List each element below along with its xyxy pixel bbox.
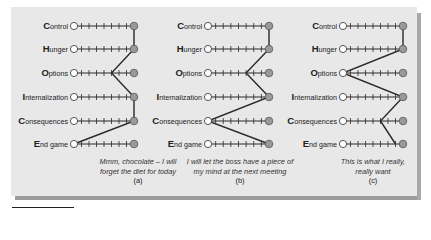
panel-tag-c: (c): [303, 176, 431, 186]
open-circle-icon: [204, 117, 211, 124]
filled-circle-icon: [265, 45, 273, 53]
row-label: End game: [168, 138, 202, 149]
filled-circle-icon: [399, 69, 407, 77]
row-label: Consequences: [18, 115, 68, 126]
filled-circle-icon: [265, 140, 273, 148]
caption-c: This is what I really, really want (c): [303, 157, 431, 186]
row-label: Options: [175, 67, 202, 78]
open-circle-icon: [70, 140, 77, 147]
open-circle-icon: [204, 45, 211, 52]
profile-line-b: [208, 26, 269, 144]
open-circle-icon: [339, 69, 346, 76]
caption-b-line1: I will let the boss have a piece of: [187, 157, 293, 166]
row-label: Control: [43, 20, 68, 31]
filled-circle-icon: [399, 22, 407, 30]
filled-circle-icon: [399, 140, 407, 148]
filled-circle-icon: [265, 22, 273, 30]
filled-circle-icon: [399, 45, 407, 53]
filled-circle-icon: [265, 93, 273, 101]
open-circle-icon: [70, 22, 77, 29]
caption-b: I will let the boss have a piece of my m…: [170, 157, 310, 186]
open-circle-icon: [204, 22, 211, 29]
profile-line-a: [74, 26, 134, 144]
row-label: Consequences: [152, 115, 202, 126]
filled-circle-icon: [399, 93, 407, 101]
open-circle-icon: [339, 45, 346, 52]
row-label: Internalization: [292, 91, 337, 102]
caption-b-line2: my mind at the next meeting: [194, 167, 287, 176]
footnote-rule: [12, 207, 74, 208]
open-circle-icon: [70, 69, 77, 76]
filled-circle-icon: [130, 140, 138, 148]
row-label: Hunger: [312, 43, 338, 54]
open-circle-icon: [204, 69, 211, 76]
caption-c-line1: This is what I really,: [341, 157, 405, 166]
open-circle-icon: [339, 22, 346, 29]
filled-circle-icon: [265, 69, 273, 77]
filled-circle-icon: [130, 117, 138, 125]
row-label: Options: [310, 67, 337, 78]
open-circle-icon: [70, 93, 77, 100]
row-label: Control: [177, 20, 202, 31]
caption-a-line2: forget the diet for today: [100, 167, 176, 176]
open-circle-icon: [204, 93, 211, 100]
row-label: Internalization: [157, 91, 202, 102]
open-circle-icon: [70, 45, 77, 52]
filled-circle-icon: [130, 22, 138, 30]
profile-line-c: [343, 26, 403, 144]
row-label: Control: [312, 20, 337, 31]
open-circle-icon: [339, 117, 346, 124]
filled-circle-icon: [265, 117, 273, 125]
open-circle-icon: [204, 140, 211, 147]
caption-c-line2: really want: [355, 167, 390, 176]
filled-circle-icon: [399, 117, 407, 125]
row-label: Internalization: [23, 91, 68, 102]
row-label: Hunger: [43, 43, 69, 54]
caption-a-line1: Mmm, chocolate – I will: [100, 157, 177, 166]
open-circle-icon: [339, 140, 346, 147]
filled-circle-icon: [130, 93, 138, 101]
filled-circle-icon: [130, 45, 138, 53]
panel-tag-b: (b): [170, 176, 310, 186]
row-label: Options: [41, 67, 68, 78]
row-label: End game: [34, 138, 68, 149]
row-label: Hunger: [177, 43, 203, 54]
row-label: Consequences: [287, 115, 337, 126]
row-label: End game: [303, 138, 337, 149]
open-circle-icon: [339, 93, 346, 100]
open-circle-icon: [70, 117, 77, 124]
filled-circle-icon: [130, 69, 138, 77]
